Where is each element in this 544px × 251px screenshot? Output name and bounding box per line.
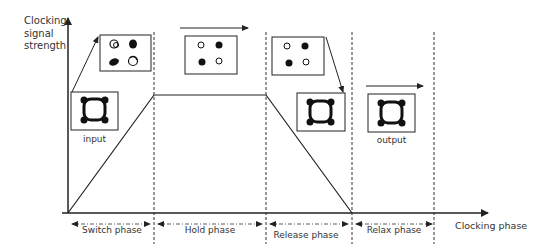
transition-arrow — [72, 37, 98, 92]
transition-arrow — [326, 37, 343, 92]
output-cell — [368, 94, 415, 132]
input-label: input — [83, 134, 107, 144]
y-axis-label-line-1: Clocking — [24, 15, 67, 26]
phase-label-hold: Hold phase — [185, 225, 236, 235]
x-axis-label: Clocking phase — [455, 220, 527, 231]
switch-phase-cell — [100, 35, 151, 71]
phase-label-switch: Switch phase — [82, 225, 142, 235]
y-axis-label-line-2: signal — [24, 28, 54, 39]
output-label: output — [377, 135, 407, 145]
hold-phase-cell — [185, 36, 237, 74]
phase-label-release: Release phase — [273, 230, 339, 240]
input-cell — [71, 92, 118, 130]
y-axis-label-line-3: strength — [24, 40, 66, 51]
phase-label-relax: Relax phase — [367, 225, 422, 235]
release-result-cell — [297, 93, 345, 131]
release-phase-cell — [272, 37, 324, 75]
clocking-diagram: Clocking signal strength input output Sw… — [0, 0, 544, 251]
